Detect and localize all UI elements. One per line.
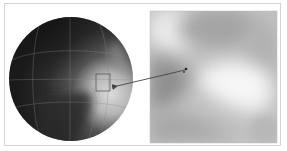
sphere: [9, 0, 133, 145]
figure-canvas: [0, 0, 287, 151]
inset-panel: [148, 8, 281, 144]
feature-point: [183, 71, 185, 73]
feature-point: [185, 68, 188, 71]
figure: [0, 0, 287, 151]
